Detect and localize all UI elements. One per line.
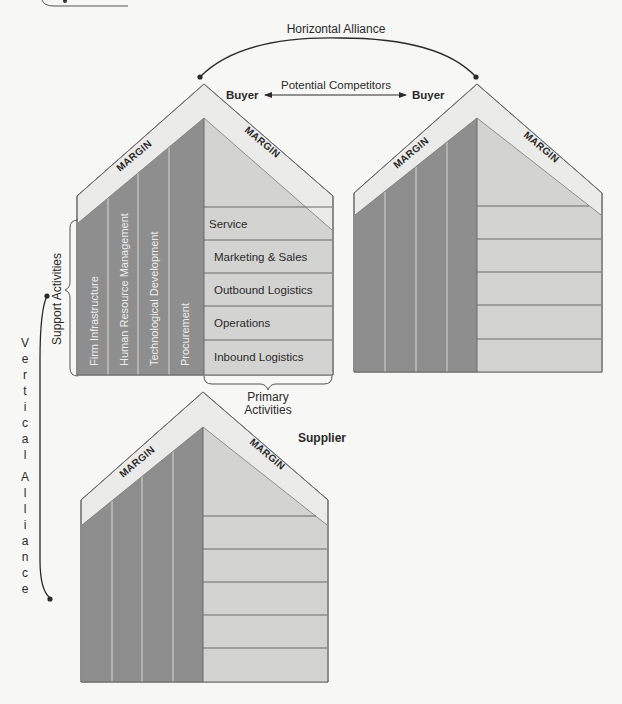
role-label-buyer-right: Buyer: [412, 89, 445, 101]
value-chain-alliance-diagram: MARGIN MARGIN Firm Infrastructure Human …: [0, 0, 622, 704]
svg-text:e: e: [22, 582, 29, 596]
primary-activity-marketing-sales: Marketing & Sales: [214, 251, 308, 263]
house-buyer-left: MARGIN MARGIN Firm Infrastructure Human …: [77, 84, 333, 375]
support-activity-firm-infrastructure: Firm Infrastructure: [88, 276, 100, 366]
svg-text:c: c: [22, 566, 28, 580]
figure-header-fragment: [42, 0, 128, 6]
potential-competitors-connector: Potential Competitors Buyer Buyer: [226, 79, 445, 101]
svg-text:a: a: [22, 534, 29, 548]
role-label-supplier: Supplier: [298, 431, 346, 445]
primary-activity-service: Service: [209, 218, 247, 230]
primary-activity-outbound-logistics: Outbound Logistics: [214, 284, 313, 296]
svg-text:A: A: [21, 470, 29, 484]
primary-activities-label-line1: Primary: [247, 390, 288, 404]
vertical-alliance-label: V e r t i c a l A l l i a n c e: [21, 336, 29, 596]
horizontal-alliance-label: Horizontal Alliance: [287, 22, 386, 36]
support-activities-brace: Support Activities: [50, 220, 78, 376]
svg-text:l: l: [24, 486, 27, 500]
svg-text:a: a: [22, 432, 29, 446]
svg-text:r: r: [23, 368, 27, 382]
role-label-buyer-left: Buyer: [226, 89, 259, 101]
svg-text:c: c: [22, 416, 28, 430]
primary-activities-label-line2: Activities: [244, 403, 291, 417]
horizontal-alliance-connector: Horizontal Alliance: [197, 22, 478, 80]
svg-text:l: l: [24, 502, 27, 516]
svg-text:l: l: [24, 448, 27, 462]
primary-activity-operations: Operations: [214, 317, 271, 329]
svg-text:n: n: [22, 550, 29, 564]
house-supplier: MARGIN MARGIN: [81, 392, 328, 682]
potential-competitors-label: Potential Competitors: [281, 79, 391, 91]
support-activity-technological-development: Technological Development: [148, 231, 160, 366]
svg-text:t: t: [23, 384, 27, 398]
svg-text:i: i: [24, 400, 27, 414]
support-activities-label: Support Activities: [50, 253, 64, 345]
house-buyer-right: MARGIN MARGIN: [354, 84, 602, 372]
svg-text:e: e: [22, 352, 29, 366]
support-activity-human-resource-management: Human Resource Management: [118, 213, 130, 366]
svg-text:i: i: [24, 518, 27, 532]
support-activity-procurement: Procurement: [179, 303, 191, 366]
primary-activity-inbound-logistics: Inbound Logistics: [214, 351, 304, 363]
svg-text:V: V: [21, 336, 29, 350]
